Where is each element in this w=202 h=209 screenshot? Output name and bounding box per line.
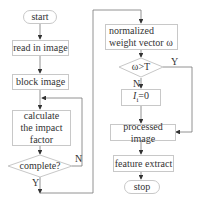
read-image-node: read in image — [12, 40, 69, 56]
impact-factor-label: calculate the impact factor — [17, 110, 66, 146]
start-label: start — [31, 11, 48, 23]
block-image-label: block image — [16, 76, 65, 88]
set-zero-value: =0 — [138, 90, 149, 101]
feature-extract-label: feature extract — [115, 158, 172, 170]
normalized-weight-label: normalized weight vector ω — [109, 25, 177, 49]
block-image-node: block image — [12, 74, 69, 90]
set-zero-label: Ii=0 — [133, 90, 149, 106]
impact-factor-node: calculate the impact factor — [12, 110, 71, 146]
processed-image-label: processed image — [111, 121, 175, 145]
normalized-weight-node: normalized weight vector ω — [105, 24, 178, 50]
start-node: start — [23, 10, 57, 24]
threshold-decision-label: ω>T — [126, 61, 156, 73]
set-zero-node: Ii=0 — [121, 89, 161, 106]
stop-label: stop — [134, 181, 151, 193]
complete-yes-label: Y — [32, 178, 39, 188]
threshold-no-label: N — [133, 79, 140, 89]
stop-node: stop — [124, 180, 160, 194]
read-image-label: read in image — [13, 42, 67, 54]
processed-image-node: processed image — [110, 124, 176, 141]
complete-no-label: N — [75, 154, 82, 164]
complete-decision-label: complete? — [14, 160, 66, 172]
threshold-yes-label: Y — [171, 57, 178, 67]
feature-extract-node: feature extract — [113, 155, 174, 172]
